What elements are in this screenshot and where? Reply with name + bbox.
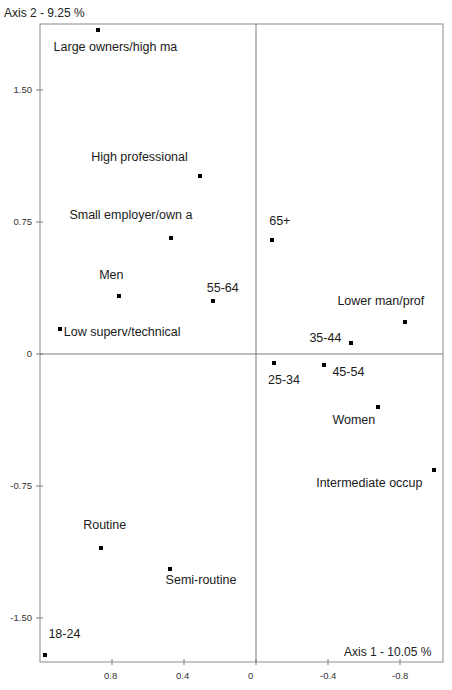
data-point-marker <box>58 327 62 331</box>
data-point-label: Men <box>99 268 123 282</box>
x-tick-label: 0.4 <box>176 670 189 681</box>
y-tick-label: 1.50 <box>14 84 33 95</box>
data-point-marker <box>198 174 202 178</box>
data-point-label: 18-24 <box>48 627 80 641</box>
data-point-marker <box>432 468 436 472</box>
data-point-label: Large owners/high ma <box>54 40 178 54</box>
data-point-marker <box>99 546 103 550</box>
data-point-marker <box>349 341 353 345</box>
data-point-label: Semi-routine <box>166 573 237 587</box>
data-point-label: Women <box>332 413 375 427</box>
plot-frame <box>40 24 443 662</box>
data-point-marker <box>117 294 121 298</box>
data-point-marker <box>272 361 276 365</box>
x-tick-label: -0.8 <box>392 670 408 681</box>
data-point-label: 45-54 <box>332 365 364 379</box>
data-point-marker <box>43 653 47 657</box>
data-point-label: 65+ <box>269 214 290 228</box>
data-point-label: 35-44 <box>309 331 341 345</box>
data-point-marker <box>376 405 380 409</box>
y-tick-label: 0.75 <box>14 216 33 227</box>
x-axis-title: Axis 1 - 10.05 % <box>344 645 431 659</box>
y-axis-title: Axis 2 - 9.25 % <box>4 6 85 20</box>
data-point-marker <box>211 299 215 303</box>
data-point-marker <box>322 363 326 367</box>
correspondence-analysis-chart: Axis 2 - 9.25 % Axis 1 - 10.05 % 0.80.40… <box>0 0 452 690</box>
data-point-label: High professional <box>91 150 188 164</box>
data-point-label: 55-64 <box>207 281 239 295</box>
y-tick-label: -0.75 <box>10 480 32 491</box>
data-point-label: Small employer/own a <box>69 208 192 222</box>
data-point-label: Routine <box>83 518 126 532</box>
x-tick-label: -0.4 <box>320 670 336 681</box>
data-point-marker <box>270 238 274 242</box>
data-point-marker <box>96 28 100 32</box>
x-tick-label: 0 <box>248 670 253 681</box>
data-point-marker <box>168 567 172 571</box>
data-point-label: Low superv/technical <box>64 325 181 339</box>
data-point-marker <box>169 236 173 240</box>
data-point-marker <box>403 320 407 324</box>
x-tick-label: 0.8 <box>104 670 117 681</box>
data-point-label: Intermediate occup <box>316 476 422 490</box>
y-tick-label: -1.50 <box>10 612 32 623</box>
y-tick-label: 0 <box>27 348 32 359</box>
data-point-label: 25-34 <box>268 373 300 387</box>
data-point-label: Lower man/prof <box>337 294 424 308</box>
